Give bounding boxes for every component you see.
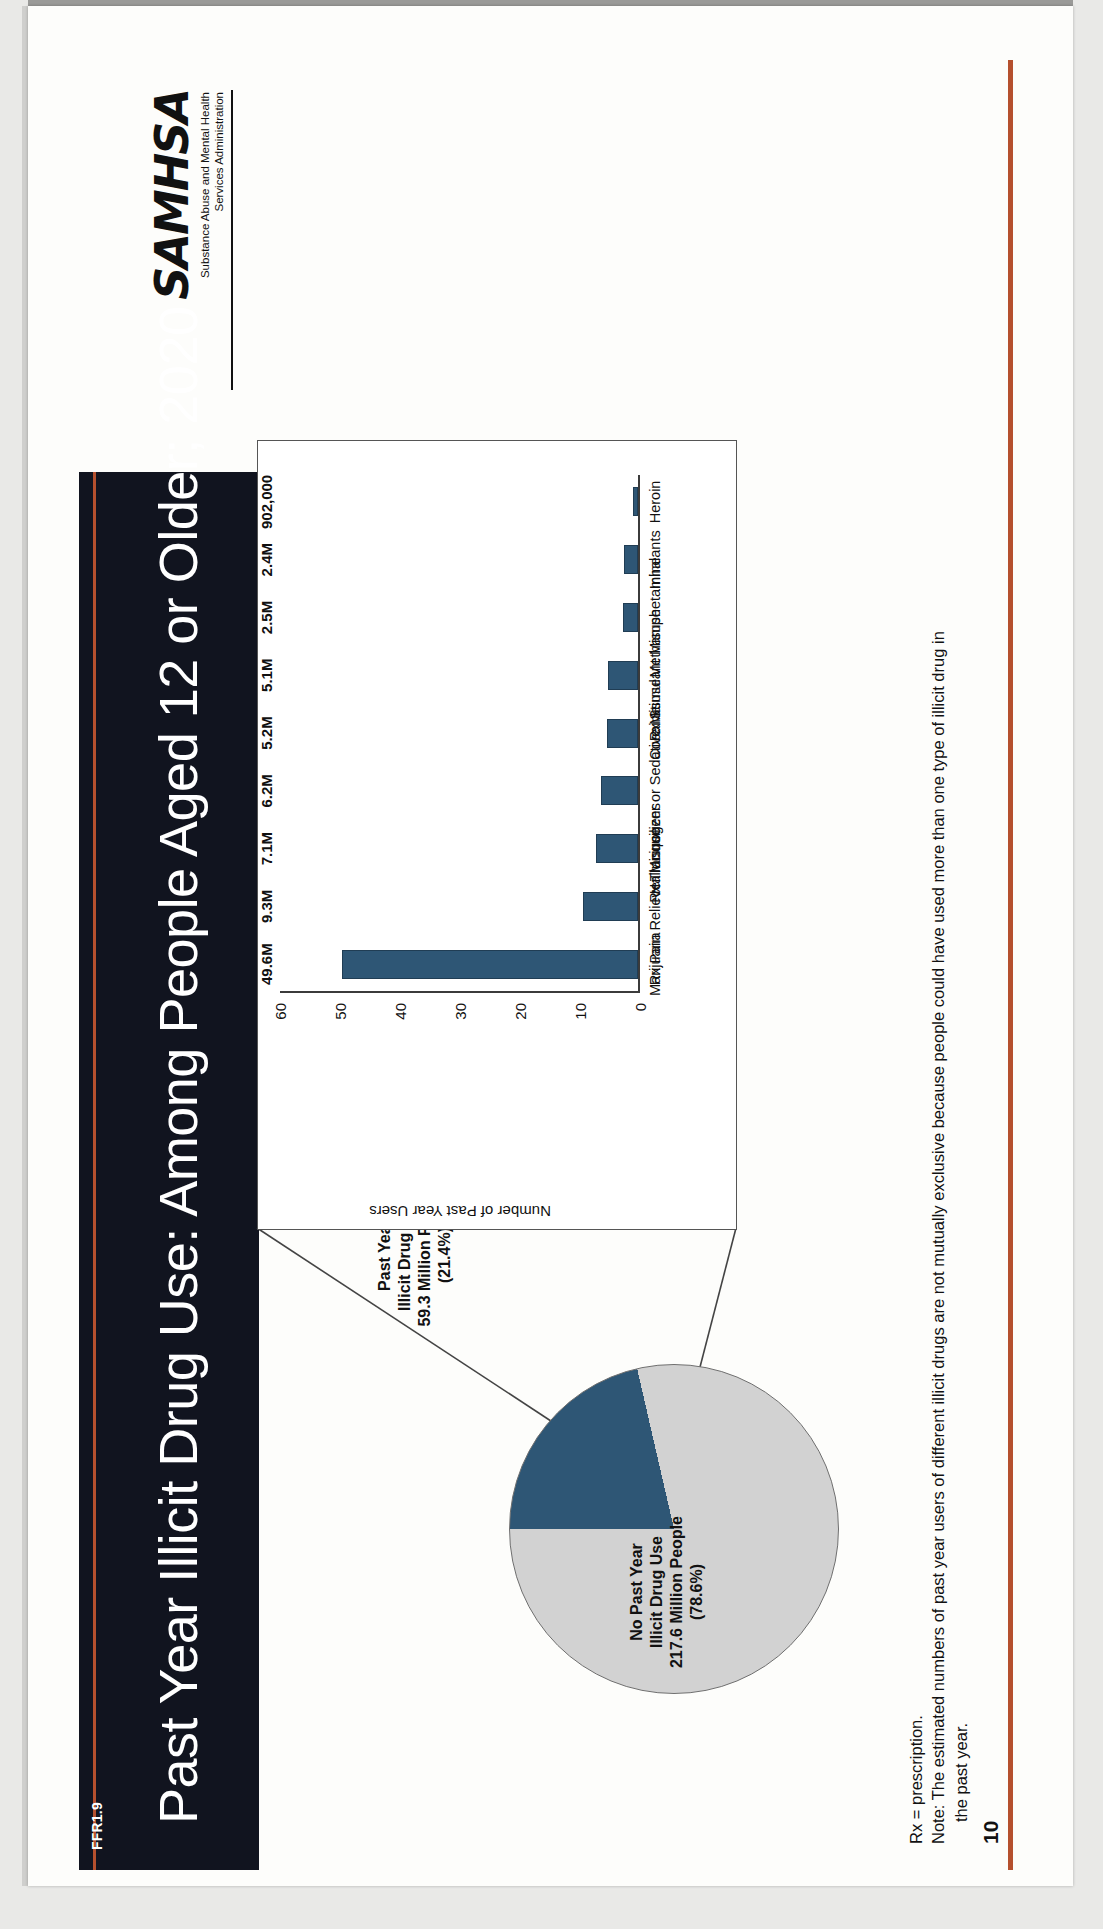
y-axis-tick-label: 10 [571,1003,588,1020]
y-axis-tick-label: 50 [331,1003,348,1020]
figure-id-label: FFR1.9 [89,1802,105,1850]
bar-value-label: 2.4M [258,543,275,576]
bar-value-label: 5.1M [258,658,275,691]
bar-category-label: Heroin [647,480,663,523]
pie-label-no-past-year-use: No Past Year Illicit Drug Use 217.6 Mill… [627,1482,707,1702]
bar-value-label: 5.2M [258,716,275,749]
bar-value-label: 902,000 [258,474,275,528]
page-number: 10 [979,1820,1003,1843]
samhsa-tagline: Substance Abuse and Mental Health Servic… [198,90,233,390]
bar: 49.6M [342,949,638,978]
title-accent-rule [93,472,96,1870]
samhsa-logo: SAMHSA Substance Abuse and Mental Health… [149,90,233,390]
y-axis-tick-label: 0 [631,1003,648,1011]
bar-category-label: Inhalants [647,530,663,589]
bar-chart-plot-area: 49.6MMarijuana9.3MRx Pain Reliever Misus… [280,475,640,993]
bar: 6.2M [601,776,638,805]
bar-column: 9.3MRx Pain Reliever Misuse [280,879,638,933]
bar-column: 2.5MMethamphetamine [280,590,638,644]
bar: 2.4M [623,545,637,574]
bar: 9.3M [582,891,637,920]
y-axis-title: Number of Past Year Users [369,1202,551,1219]
bar-value-label: 6.2M [258,774,275,807]
bar: 902,000 [632,487,637,516]
presentation-slide: FFR1.9 Past Year Illicit Drug Use: Among… [57,60,1047,1870]
bar-chart-panel: Number of Past Year Users 0102030405060 … [257,440,737,1230]
pie-label-no-line-1: No Past Year [627,1482,647,1702]
samhsa-wordmark: SAMHSA [149,90,195,390]
bar-chart-y-axis: Number of Past Year Users 0102030405060 [280,997,640,1229]
pie-label-no-line-3: 217.6 Million People [667,1482,687,1702]
footnote-note: Note: The estimated numbers of past year… [927,144,950,1844]
y-axis-tick-label: 60 [271,1003,288,1020]
y-axis-tick-label: 30 [451,1003,468,1020]
bar-value-label: 9.3M [258,889,275,922]
bar-series: 49.6MMarijuana9.3MRx Pain Reliever Misus… [280,475,640,993]
bar: 7.1M [595,834,637,863]
bar: 5.1M [607,660,637,689]
footnote-note-cont: the past year. [950,144,973,1844]
slide-bottom-rule [1008,60,1013,1870]
bar-column: 902,000Heroin [280,475,638,529]
bar-value-label: 2.5M [258,600,275,633]
pie-label-no-line-4: (78.6%) [687,1482,707,1702]
samhsa-tagline-line-2: Services Administration [212,92,226,390]
slide-title-band: FFR1.9 Past Year Illicit Drug Use: Among… [79,472,259,1870]
bar-column: 49.6MMarijuana [280,937,638,991]
bar: 5.2M [606,718,637,747]
bar-value-label: 7.1M [258,831,275,864]
bar-column: 5.2MCocaine [280,706,638,760]
y-axis-tick-label: 20 [511,1003,528,1020]
samhsa-tagline-line-1: Substance Abuse and Mental Health [198,92,212,390]
footnote-rx: Rx = prescription. [904,144,927,1844]
footnotes: Rx = prescription. Note: The estimated n… [904,144,972,1844]
page-title: Past Year Illicit Drug Use: Among People… [129,306,209,1869]
pie-label-no-line-2: Illicit Drug Use [647,1482,667,1702]
bar-value-label: 49.6M [258,943,275,985]
bar-column: 7.1MHallucinogens [280,821,638,875]
bar: 2.5M [623,603,638,632]
pie-chart: No Past Year Illicit Drug Use 217.6 Mill… [509,1364,839,1694]
bar-column: 2.4MInhalants [280,532,638,586]
bar-column: 5.1MRx Stimulant Misuse [280,648,638,702]
scanned-page: FFR1.9 Past Year Illicit Drug Use: Among… [0,0,1103,1929]
y-axis-tick-label: 40 [391,1003,408,1020]
bar-column: 6.2MRx Tranquilizer or Sedative Misuse [280,764,638,818]
